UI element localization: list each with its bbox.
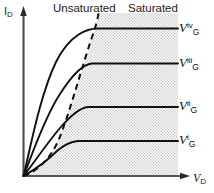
x-axis-subscript: D [200,177,206,186]
curve-label-vg-ii-subscript: G [191,105,198,115]
curve-label-vg-iv-symbol: V [179,20,187,35]
region-label-saturated: Saturated [128,3,178,15]
curve-label-vg-ii-symbol: V [179,98,187,113]
curve-label-vg-i: ViG [179,133,195,149]
fet-characteristic-figure: ID VD Unsaturated Saturated VivG ViiiG V… [0,0,214,193]
y-axis-subscript: D [7,10,13,19]
y-axis [20,6,27,176]
curve-label-vg-iii-symbol: V [179,55,187,70]
curve-label-vg-iv: VivG [179,21,199,37]
curve-label-vg-iii: ViiiG [179,56,199,72]
curve-label-vg-ii: ViiG [179,99,197,115]
region-label-unsaturated: Unsaturated [53,3,116,15]
curve-label-vg-i-subscript: G [189,139,196,149]
y-axis-label: ID [4,6,13,19]
curve-label-vg-i-symbol: V [179,132,187,147]
curve-label-vg-iii-subscript: G [192,62,199,72]
curve-label-vg-iv-subscript: G [193,27,200,37]
x-axis-label: VD [193,172,206,186]
